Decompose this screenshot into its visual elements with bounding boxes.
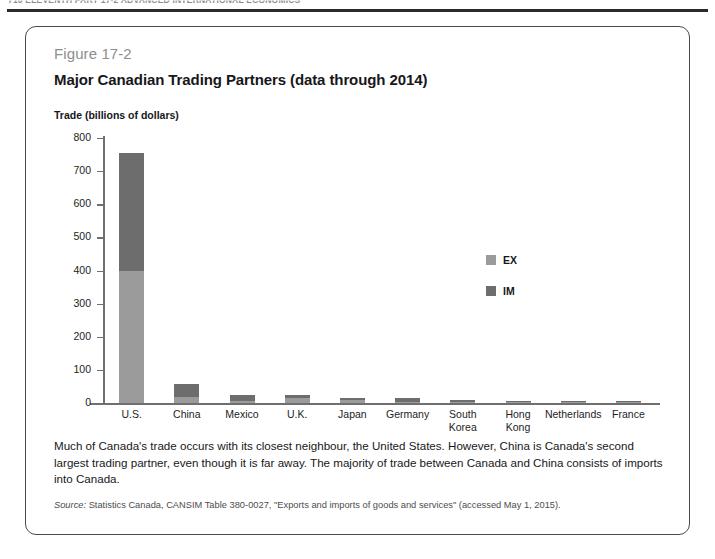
bar-segment-ex — [340, 400, 365, 403]
bar-group — [340, 398, 365, 403]
x-axis-line — [90, 403, 660, 405]
y-tick-200 — [97, 337, 104, 338]
running-header-text: 710 ELEVENTH PART 17-2 ADVANCED INTERNAT… — [8, 0, 300, 5]
y-tick-label-400: 400 — [54, 264, 91, 276]
y-tick-label-300: 300 — [54, 297, 91, 309]
bar-group — [561, 401, 586, 403]
bar-segment-ex — [395, 402, 420, 403]
legend-label-ex: EX — [503, 254, 517, 266]
bar-segment-ex — [119, 271, 144, 404]
bar-segment-ex — [230, 401, 255, 403]
bar-group — [285, 395, 310, 403]
figure-card: Figure 17-2 Major Canadian Trading Partn… — [25, 26, 690, 535]
y-tick-label-200: 200 — [54, 330, 91, 342]
bar-group — [395, 398, 420, 403]
bar-segment-im — [285, 395, 310, 398]
bar-segment-ex — [174, 397, 199, 403]
bar-segment-ex — [285, 398, 310, 403]
bar-group — [450, 400, 475, 403]
y-tick-600 — [97, 204, 104, 205]
bar-segment-im — [119, 153, 144, 271]
x-axis-label: France — [582, 408, 674, 421]
bar-segment-im — [340, 398, 365, 400]
bar-segment-im — [616, 401, 641, 402]
bar-segment-ex — [616, 402, 641, 403]
bar-segment-im — [395, 398, 420, 402]
bar-segment-im — [450, 400, 475, 401]
bar-group — [230, 395, 255, 403]
chart-legend: EX IM — [486, 254, 517, 316]
y-tick-label-100: 100 — [54, 363, 91, 375]
source-text: Statistics Canada, CANSIM Table 380-0027… — [86, 500, 561, 510]
y-tick-100 — [97, 370, 104, 371]
bar-group — [119, 153, 144, 403]
bar-chart: 0100200300400500600700800 U.S.ChinaMexic… — [54, 130, 662, 430]
legend-item-im: IM — [486, 285, 517, 297]
header-rule — [7, 9, 708, 12]
bar-segment-ex — [561, 402, 586, 403]
bar-segment-im — [230, 395, 255, 401]
legend-swatch-im-icon — [486, 286, 496, 296]
source-label: Source: — [54, 500, 86, 510]
y-tick-label-700: 700 — [54, 164, 91, 176]
y-tick-label-500: 500 — [54, 230, 91, 242]
figure-number: Figure 17-2 — [54, 45, 132, 62]
y-tick-label-800: 800 — [54, 131, 91, 143]
y-axis-title: Trade (billions of dollars) — [54, 109, 179, 121]
y-tick-800 — [97, 138, 104, 139]
bar-group — [174, 384, 199, 403]
figure-title: Major Canadian Trading Partners (data th… — [54, 71, 427, 88]
y-tick-400 — [97, 271, 104, 272]
bar-group — [506, 401, 531, 403]
y-tick-label-0: 0 — [54, 396, 91, 408]
y-tick-0 — [97, 403, 104, 404]
bar-segment-ex — [506, 402, 531, 403]
plot-area — [104, 138, 656, 403]
bar-segment-im — [506, 401, 531, 402]
bar-group — [616, 401, 641, 403]
legend-label-im: IM — [503, 285, 515, 297]
bar-segment-im — [174, 384, 199, 396]
y-tick-500 — [97, 237, 104, 238]
figure-caption: Much of Canada's trade occurs with its c… — [54, 438, 666, 488]
bar-segment-im — [561, 401, 586, 402]
figure-source: Source: Statistics Canada, CANSIM Table … — [54, 499, 666, 512]
legend-swatch-ex-icon — [486, 255, 496, 265]
bar-segment-ex — [450, 402, 475, 403]
y-tick-300 — [97, 304, 104, 305]
legend-item-ex: EX — [486, 254, 517, 266]
y-tick-label-600: 600 — [54, 197, 91, 209]
y-tick-700 — [97, 171, 104, 172]
